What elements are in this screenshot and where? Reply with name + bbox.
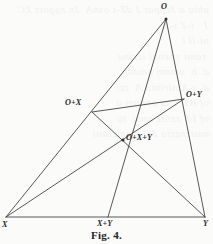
segment-O-XY	[108, 19, 166, 217]
segment-OX-OY	[92, 99, 184, 112]
label-O: O	[161, 3, 167, 11]
segment-Y-OX	[92, 112, 205, 217]
segment-X-OY	[6, 99, 184, 217]
figure-caption: Fig. 4.	[0, 229, 213, 241]
diagram-canvas	[0, 0, 213, 244]
segment-X-O	[6, 19, 166, 217]
segment-O-Y	[166, 19, 205, 217]
label-O-plus-X-plus-Y: O+X+Y	[126, 134, 152, 142]
label-X-plus-Y: X+Y	[97, 220, 112, 228]
label-O-plus-X: O+X	[65, 99, 81, 107]
point-O	[165, 18, 168, 21]
label-Y: Y	[203, 220, 208, 228]
label-X: X	[2, 221, 8, 229]
label-O-plus-Y: O+Y	[186, 91, 202, 99]
figure-fig-4: uhla a Jcppat J dZ-t osnA Jn zggort ZC J…	[0, 0, 213, 244]
segments-group	[6, 19, 205, 217]
point-OXY	[122, 139, 125, 142]
